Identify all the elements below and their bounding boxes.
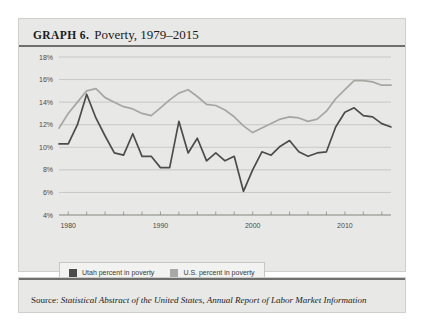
x-axis-tick-label: 1980 bbox=[60, 222, 76, 229]
x-axis-group bbox=[59, 212, 391, 216]
y-axis-tick-label: 16% bbox=[39, 76, 53, 83]
y-axis-tick-label: 4% bbox=[43, 212, 53, 219]
source-line: Source: Statistical Abstract of the Unit… bbox=[31, 295, 366, 305]
legend-label-utah: Utah percent in poverty bbox=[82, 269, 154, 276]
y-axis-tick-label: 10% bbox=[39, 144, 53, 151]
page-title: Poverty, 1979–2015 bbox=[94, 27, 199, 42]
graph-number-label: GRAPH 6. bbox=[33, 29, 89, 41]
y-axis-tick-labels: 4%6%8%10%12%14%16%18% bbox=[39, 54, 53, 219]
legend-label-us: U.S. percent in poverty bbox=[183, 269, 254, 276]
x-axis-tick-label: 2010 bbox=[337, 222, 353, 229]
source-panel: Source: Statistical Abstract of the Unit… bbox=[18, 277, 406, 313]
source-titles: Statistical Abstract of the United State… bbox=[61, 295, 367, 305]
series-line-utah bbox=[59, 94, 391, 191]
x-axis-tick-label: 2000 bbox=[245, 222, 261, 229]
y-axis-tick-label: 14% bbox=[39, 99, 53, 106]
plot-area: 4%6%8%10%12%14%16%18% 1980199020002010 bbox=[19, 49, 407, 239]
y-axis-tick-label: 6% bbox=[43, 189, 53, 196]
source-note: Source: Statistical Abstract of the Unit… bbox=[19, 278, 405, 312]
y-axis-tick-label: 12% bbox=[39, 121, 53, 128]
legend-swatch-us-icon bbox=[170, 269, 178, 277]
legend-item-utah: Utah percent in poverty bbox=[69, 269, 154, 277]
page-root: GRAPH 6.Poverty, 1979–2015 4%6%8%10%12%1… bbox=[0, 0, 424, 328]
source-prefix: Source: bbox=[31, 295, 61, 305]
y-axis-tick-label: 18% bbox=[39, 54, 53, 61]
x-axis-tick-labels: 1980199020002010 bbox=[60, 222, 352, 229]
x-axis-tick-label: 1990 bbox=[153, 222, 169, 229]
gridlines-group bbox=[59, 57, 391, 215]
graph-panel: GRAPH 6.Poverty, 1979–2015 4%6%8%10%12%1… bbox=[18, 18, 406, 272]
legend-swatch-utah-icon bbox=[69, 269, 77, 277]
poverty-line-chart: 4%6%8%10%12%14%16%18% 1980199020002010 bbox=[19, 49, 407, 239]
graph-title-bar: GRAPH 6.Poverty, 1979–2015 bbox=[19, 19, 405, 47]
legend-item-us: U.S. percent in poverty bbox=[170, 269, 254, 277]
y-axis-tick-label: 8% bbox=[43, 166, 53, 173]
